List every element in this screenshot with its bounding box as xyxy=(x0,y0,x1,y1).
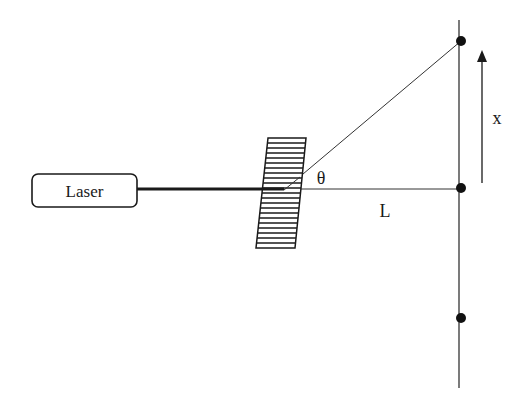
upper-spot xyxy=(456,36,466,46)
angle-label: θ xyxy=(317,168,326,188)
laser-box: Laser xyxy=(32,174,137,207)
displacement-label: x xyxy=(493,108,502,128)
diffraction-grating xyxy=(250,138,310,248)
lower-spot xyxy=(456,313,466,323)
distance-label: L xyxy=(380,201,391,221)
laser-label: Laser xyxy=(66,182,104,201)
central-spot xyxy=(456,183,466,193)
diffracted-ray xyxy=(284,41,461,190)
diagram-canvas: Laser xyxy=(0,0,517,400)
x-displacement-arrow xyxy=(477,50,487,183)
